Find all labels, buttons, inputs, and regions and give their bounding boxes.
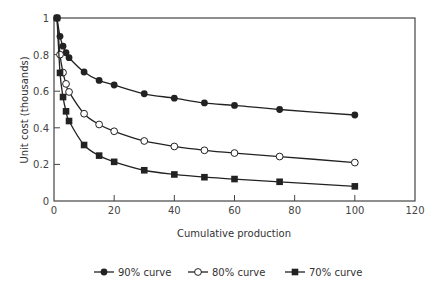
- marker-filled-square: [276, 178, 283, 185]
- x-tick-label: 40: [168, 205, 181, 216]
- legend-marker-filled-square: [292, 269, 299, 276]
- marker-filled-circle: [171, 95, 178, 102]
- series-80-curve: [54, 15, 359, 166]
- x-tick-label: 20: [108, 205, 121, 216]
- legend-item: 70% curve: [285, 267, 362, 278]
- series-90-curve: [54, 15, 359, 119]
- legend-item: 80% curve: [188, 267, 265, 278]
- marker-filled-circle: [60, 43, 67, 50]
- y-tick-label: 0.2: [33, 159, 49, 170]
- marker-filled-square: [111, 159, 118, 166]
- marker-open-circle: [141, 138, 148, 145]
- marker-filled-square: [57, 70, 64, 77]
- marker-filled-square: [54, 15, 61, 22]
- x-tick-label: 80: [288, 205, 301, 216]
- marker-filled-square: [141, 167, 148, 174]
- x-axis-title: Cumulative production: [177, 228, 291, 239]
- marker-filled-square: [60, 94, 67, 101]
- marker-filled-square: [201, 174, 208, 181]
- legend-label: 80% curve: [212, 267, 265, 278]
- marker-filled-square: [171, 171, 178, 178]
- marker-filled-circle: [351, 112, 358, 119]
- marker-filled-circle: [111, 82, 118, 89]
- marker-open-circle: [63, 80, 70, 87]
- x-tick-label: 100: [345, 205, 364, 216]
- marker-open-circle: [171, 143, 178, 150]
- marker-filled-circle: [81, 69, 88, 76]
- y-tick-label: 0.8: [33, 50, 49, 61]
- marker-open-circle: [276, 153, 283, 160]
- marker-filled-circle: [66, 54, 73, 61]
- marker-open-circle: [111, 128, 118, 135]
- legend-item: 90% curve: [94, 267, 171, 278]
- marker-filled-square: [63, 108, 70, 115]
- marker-open-circle: [96, 121, 103, 128]
- plot-frame: [54, 18, 415, 201]
- marker-open-circle: [231, 150, 238, 157]
- legend: 90% curve80% curve70% curve: [94, 267, 362, 278]
- x-tick-label: 120: [405, 205, 424, 216]
- marker-filled-square: [231, 176, 238, 183]
- marker-open-circle: [351, 159, 358, 166]
- legend-marker-open-circle: [195, 269, 202, 276]
- marker-filled-circle: [231, 102, 238, 109]
- y-tick-label: 0.4: [33, 123, 49, 134]
- legend-label: 70% curve: [309, 267, 362, 278]
- marker-filled-circle: [141, 90, 148, 97]
- marker-open-circle: [57, 51, 64, 58]
- y-axis-title: Unit cost (thousands): [19, 56, 30, 163]
- learning-curve-chart: 02040608010012000.20.40.60.81 Unit cost …: [0, 0, 438, 295]
- y-tick-label: 1: [43, 13, 49, 24]
- marker-open-circle: [66, 89, 73, 96]
- marker-open-circle: [201, 147, 208, 154]
- legend-label: 90% curve: [118, 267, 171, 278]
- x-tick-label: 60: [228, 205, 241, 216]
- marker-filled-circle: [276, 106, 283, 113]
- plot-area: 02040608010012000.20.40.60.81: [33, 13, 424, 216]
- x-tick-label: 0: [51, 205, 57, 216]
- series-line: [57, 18, 355, 163]
- y-tick-label: 0: [43, 196, 49, 207]
- legend-marker-filled-circle: [101, 269, 108, 276]
- marker-filled-circle: [96, 77, 103, 84]
- marker-open-circle: [81, 110, 88, 117]
- marker-filled-circle: [201, 100, 208, 107]
- marker-filled-square: [66, 118, 73, 125]
- series-group: [54, 15, 359, 190]
- y-tick-label: 0.6: [33, 86, 49, 97]
- marker-filled-square: [352, 183, 359, 190]
- marker-filled-square: [81, 142, 88, 149]
- marker-filled-square: [96, 152, 103, 159]
